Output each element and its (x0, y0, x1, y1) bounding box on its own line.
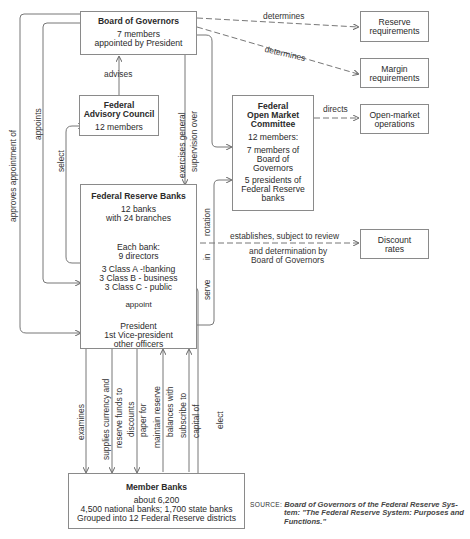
fomc-board-3: Governors (233, 164, 313, 173)
member-banks-districts: Grouped into 12 Federal Reserve district… (69, 514, 244, 523)
label-discounts: discounts (126, 402, 136, 437)
label-supervision-over: supervision over (189, 111, 199, 172)
label-paper-for: paper for (138, 403, 148, 437)
label-rotation: rotation (202, 208, 212, 236)
label-exercises-general: exercises general (177, 112, 187, 178)
frb-appoint-label: appoint (81, 301, 196, 309)
label-balances-with: balances with (165, 386, 175, 437)
fomc-box: Federal Open Market Committee 12 members… (232, 95, 314, 211)
label-maintain-reserve: maintain reserve (152, 386, 162, 448)
board-appointed: appointed by President (81, 39, 196, 48)
label-examines: examines (76, 404, 86, 440)
fomc-members: 12 members: (233, 133, 313, 142)
fomc-pres-3: banks (233, 194, 313, 203)
reserve-req-line-2: requirements (361, 27, 428, 36)
discount-line-2: rates (361, 245, 428, 254)
label-directs: directs (323, 104, 348, 114)
label-appoints: appoints (33, 108, 43, 140)
member-banks-title: Member Banks (69, 483, 244, 492)
label-serve: serve (202, 280, 212, 300)
label-capital-of: capital of (191, 404, 201, 438)
frb-branches: with 24 branches (81, 214, 196, 223)
label-supplies-currency: supplies currency and (101, 379, 111, 460)
fomc-title-3: Committee (233, 120, 313, 129)
label-advises: advises (104, 69, 132, 79)
source-note: SOURCE: Board of Governors of the Federa… (250, 501, 470, 526)
label-establishes-1: establishes, subject to review (230, 231, 339, 241)
margin-requirements-box: Margin requirements (360, 58, 429, 88)
open-market-line-2: operations (361, 120, 428, 129)
label-establishes-3: Board of Governors (251, 255, 324, 265)
frb-directors: 9 directors (81, 252, 196, 261)
label-in: in (202, 253, 212, 260)
reserve-requirements-box: Reserve requirements (360, 11, 429, 42)
member-banks-box: Member Banks about 6,200 4,500 national … (68, 473, 245, 529)
federal-reserve-banks-box: Federal Reserve Banks 12 banks with 24 b… (80, 184, 197, 349)
label-elect: elect (215, 411, 225, 429)
margin-req-line-2: requirements (361, 74, 428, 83)
label-reserve-funds: reserve funds to (114, 388, 124, 448)
source-key: SOURCE: (250, 501, 282, 508)
frb-title: Federal Reserve Banks (81, 192, 196, 201)
frb-class-c: 3 Class C - public (81, 283, 196, 292)
discount-rates-box: Discount rates (360, 229, 429, 259)
frb-other-officers: other officers (81, 340, 196, 349)
board-of-governors-box: Board of Governors 7 members appointed b… (80, 11, 197, 55)
source-line-2: tem: "The Federal Reserve System: Purpos… (250, 509, 470, 517)
label-subscribe-to: subscribe to (178, 393, 188, 438)
label-approves-appointment: approves appointment of (8, 130, 18, 222)
advisory-members: 12 members (80, 123, 158, 132)
open-market-operations-box: Open-market operations (360, 104, 429, 134)
board-title: Board of Governors (81, 17, 196, 26)
source-line-3: Functions." (250, 518, 470, 526)
federal-advisory-council-box: Federal Advisory Council 12 members (79, 95, 159, 136)
label-determines-1: determines (263, 11, 304, 21)
advisory-title-2: Advisory Council (80, 110, 158, 119)
label-select: select (56, 150, 66, 172)
